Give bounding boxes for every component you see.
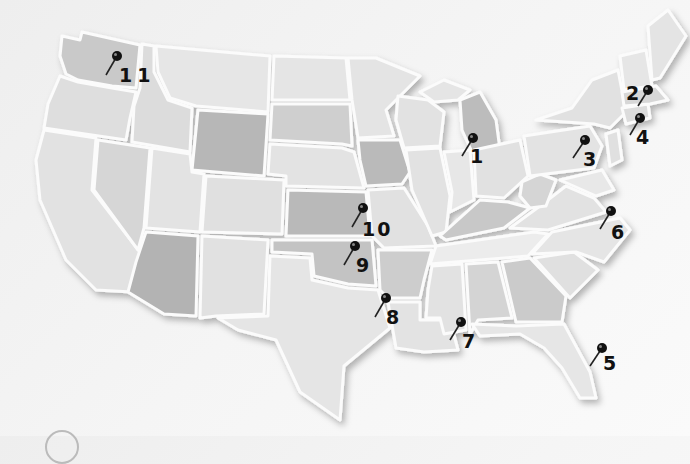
state-new-jersey	[606, 130, 622, 166]
pin-label-6: 6	[611, 223, 626, 242]
state-florida	[472, 324, 596, 398]
pin-label-1: 1	[470, 147, 485, 166]
pin-label-7: 7	[462, 332, 477, 351]
state-wisconsin	[396, 96, 444, 148]
state-north-dakota	[272, 56, 350, 100]
pin-label-9: 9	[356, 256, 371, 275]
state-maine	[648, 10, 686, 80]
state-wyoming	[192, 110, 268, 176]
state-colorado	[202, 176, 284, 234]
pin-label-5: 5	[603, 354, 618, 373]
pin-label-4: 4	[636, 128, 651, 147]
pin-label-2: 2	[626, 84, 641, 103]
state-michigan	[460, 92, 500, 152]
state-south-dakota	[270, 104, 352, 146]
pin-label-8: 8	[386, 308, 401, 327]
pin-label-3: 3	[583, 150, 598, 169]
pin-label-11: 11	[119, 66, 155, 85]
state-new-york	[536, 70, 626, 128]
state-new-mexico	[200, 236, 268, 318]
circle-decoration	[45, 430, 79, 464]
pin-label-10: 10	[362, 220, 392, 239]
state-kansas	[286, 190, 370, 236]
state-arkansas	[378, 250, 432, 298]
